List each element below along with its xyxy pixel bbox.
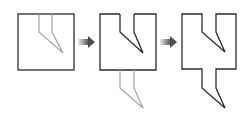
notch-ghost [39,14,63,53]
diagram-canvas [0,0,246,115]
notch-ghost-mirrored [120,70,143,108]
square-outline [18,14,74,70]
arrow-2-icon [160,36,177,48]
step-2-square [100,14,156,108]
result-outline [182,14,236,108]
arrow-1-icon [78,36,95,48]
step-1-square [18,14,74,70]
square-outline [100,14,156,70]
notch-cut [120,14,143,53]
step-3-shape [182,14,236,108]
